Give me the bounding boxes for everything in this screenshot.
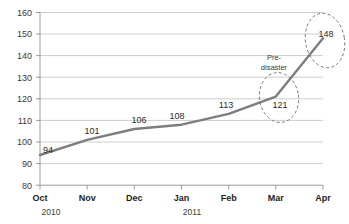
point-label-oct: 94 [43, 145, 53, 155]
ytick-label-160: 160 [17, 8, 32, 18]
ytick-label-110: 110 [18, 116, 32, 126]
annotation-line-1: Pre- [267, 53, 282, 62]
ytick-label-140: 140 [17, 51, 32, 61]
ytick-label-120: 120 [17, 94, 32, 104]
xtick-label-apr: Apr [315, 193, 331, 203]
point-label-mar: 121 [272, 100, 287, 110]
ytick-label-80: 80 [22, 181, 32, 191]
point-label-feb: 113 [219, 100, 233, 110]
xtick-label-nov: Nov [79, 193, 96, 203]
ytick-label-100: 100 [17, 137, 32, 147]
year-label-2011: 2011 [183, 207, 202, 217]
ytick-label-130: 130 [17, 73, 32, 83]
point-label-jan: 108 [169, 111, 184, 121]
point-label-apr: 148 [318, 29, 333, 39]
xtick-label-dec: Dec [126, 193, 143, 203]
xtick-label-oct: Oct [32, 193, 47, 203]
xtick-label-jan: Jan [174, 193, 190, 203]
ytick-label-90: 90 [22, 159, 32, 169]
year-label-2010: 2010 [42, 207, 61, 217]
xtick-label-feb: Feb [221, 193, 238, 203]
line-chart-figure: 160 150 140 130 120 110 100 90 80 Oct No… [0, 0, 349, 224]
xtick-label-mar: Mar [268, 193, 285, 203]
point-label-dec: 106 [131, 115, 146, 125]
annotation-line-2: disaster [261, 63, 288, 72]
point-label-nov: 101 [84, 126, 99, 136]
ytick-label-150: 150 [17, 29, 32, 39]
chart-canvas: 160 150 140 130 120 110 100 90 80 Oct No… [0, 0, 349, 224]
